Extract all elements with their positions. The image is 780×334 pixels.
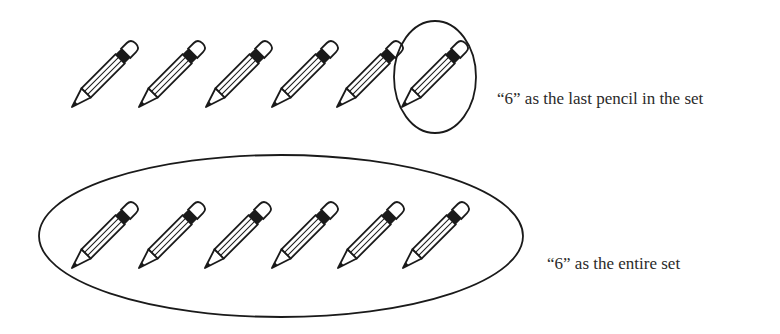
pencil-icon <box>333 200 406 273</box>
pencil-icon <box>397 39 470 112</box>
entire-set-caption: “6” as the entire set <box>547 254 680 274</box>
pencil-icon <box>134 39 207 112</box>
pencil-icon <box>267 39 340 112</box>
pencil-icon <box>134 200 207 273</box>
row-last-pencil <box>67 21 476 133</box>
last-pencil-caption: “6” as the last pencil in the set <box>497 89 703 109</box>
pencil-icon <box>67 200 140 273</box>
pencil-icon <box>200 200 273 273</box>
pencil-icon <box>67 39 140 112</box>
pencil-icon <box>267 200 340 273</box>
diagram-canvas <box>0 0 780 334</box>
row-entire-set <box>39 155 523 317</box>
pencil-icon <box>398 200 471 273</box>
pencil-icon <box>201 39 274 112</box>
